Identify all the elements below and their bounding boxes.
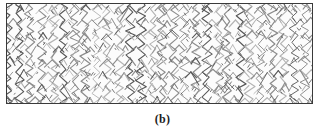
- figure-caption: (b): [0, 112, 325, 126]
- figure-root: (b): [0, 0, 325, 133]
- zigzag-chevron-weave-texture: [7, 4, 312, 103]
- specimen-panel: [6, 3, 313, 104]
